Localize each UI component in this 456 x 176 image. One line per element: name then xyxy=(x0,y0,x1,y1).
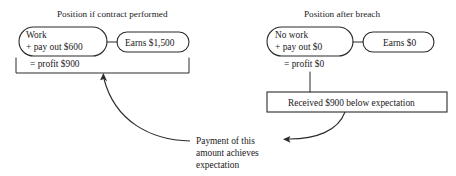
left-panel: Position if contract performed Work + pa… xyxy=(16,9,189,73)
right-outflow-line2: + pay out $0 xyxy=(275,42,323,52)
left-inflow-label: Earns $1,500 xyxy=(125,38,175,48)
right-outflow-line1: No work xyxy=(275,30,308,40)
left-outflow-line2: + pay out $600 xyxy=(26,42,83,52)
right-curved-arrow-line xyxy=(289,112,345,139)
left-outflow-line1: Work xyxy=(26,30,47,40)
caption-group: Payment of this amount achieves expectat… xyxy=(100,73,345,170)
diagram-canvas: Position if contract performed Work + pa… xyxy=(0,0,456,176)
contract-remedies-diagram: Position if contract performed Work + pa… xyxy=(0,0,456,176)
right-panel: Position after breach No work + pay out … xyxy=(267,9,447,112)
shortfall-box-label: Received $900 below expectation xyxy=(288,98,415,108)
right-net-result: = profit $0 xyxy=(284,59,324,69)
left-curved-arrow-line xyxy=(104,79,190,141)
caption-line2: amount achieves xyxy=(196,148,259,158)
left-panel-title: Position if contract performed xyxy=(57,9,168,19)
left-net-result: = profit $900 xyxy=(30,59,80,69)
caption-line3: expectation xyxy=(196,160,240,170)
left-arrowhead-icon xyxy=(100,73,107,82)
caption-line1: Payment of this xyxy=(196,136,255,146)
right-inflow-label: Earns $0 xyxy=(383,38,416,48)
right-panel-title: Position after breach xyxy=(304,9,380,19)
